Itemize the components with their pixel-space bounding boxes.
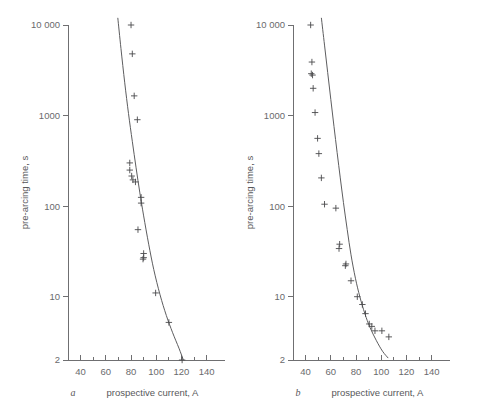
x-tick-label: 140 (199, 366, 215, 377)
figure-background (0, 0, 477, 412)
scientific-figure: 210100100010 000406080100120140pre-arcin… (0, 0, 477, 412)
panel-letter: a (71, 387, 76, 398)
y-tick-label: 100 (269, 201, 285, 212)
x-axis-title: prospective current, A (107, 387, 200, 398)
x-tick-label: 120 (399, 366, 415, 377)
x-tick-label: 40 (300, 366, 311, 377)
y-tick-label: 100 (44, 201, 60, 212)
x-tick-label: 60 (101, 366, 112, 377)
x-tick-label: 140 (424, 366, 440, 377)
y-tick-label: 10 000 (31, 19, 60, 30)
y-axis-title: pre-arcing time, s (244, 156, 255, 230)
x-tick-label: 120 (174, 366, 190, 377)
y-tick-label: 10 (49, 291, 60, 302)
panel-letter: b (296, 387, 301, 398)
x-tick-label: 100 (373, 366, 389, 377)
x-tick-label: 80 (126, 366, 137, 377)
y-tick-label: 1000 (264, 110, 285, 121)
x-axis-title: prospective current, A (332, 387, 425, 398)
y-axis-title: pre-arcing time, s (19, 156, 30, 230)
y-tick-label: 10 (274, 291, 285, 302)
x-tick-label: 60 (326, 366, 337, 377)
y-tick-label: 2 (280, 354, 285, 365)
y-tick-label: 10 000 (256, 19, 285, 30)
y-tick-label: 1000 (39, 110, 60, 121)
x-tick-label: 100 (148, 366, 164, 377)
x-tick-label: 80 (351, 366, 362, 377)
x-tick-label: 40 (75, 366, 86, 377)
figure-container: 210100100010 000406080100120140pre-arcin… (0, 0, 477, 412)
y-tick-label: 2 (55, 354, 60, 365)
